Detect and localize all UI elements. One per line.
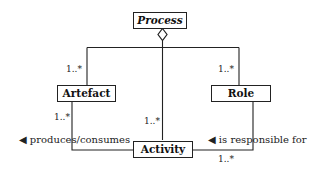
multiplicity-artefact-bottom: 1..*	[54, 113, 70, 122]
label-is-responsible-for: ◀ is responsible for	[208, 135, 307, 145]
class-process: Process	[133, 12, 187, 29]
multiplicity-role-top: 1..*	[218, 65, 234, 74]
class-role-name: Role	[228, 88, 254, 99]
aggregation-diamond-icon	[158, 29, 167, 41]
label-produces-consumes: ◀ produces/consumes	[19, 135, 130, 145]
class-artefact-name: Artefact	[63, 88, 111, 99]
class-artefact: Artefact	[57, 85, 116, 102]
class-role: Role	[211, 85, 271, 102]
multiplicity-role-activity-bottom: 1..*	[218, 155, 234, 164]
class-process-name: Process	[137, 15, 182, 26]
class-activity: Activity	[133, 141, 193, 158]
multiplicity-artefact-top: 1..*	[66, 65, 82, 74]
class-activity-name: Activity	[141, 144, 185, 155]
multiplicity-activity-top: 1..*	[144, 117, 160, 126]
